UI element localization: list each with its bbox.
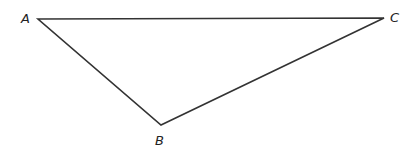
vertex-label-c: C — [390, 11, 399, 24]
triangle-abc — [38, 18, 384, 125]
triangle-diagram — [0, 0, 412, 155]
vertex-label-a: A — [21, 12, 30, 25]
vertex-label-b: B — [155, 134, 164, 147]
